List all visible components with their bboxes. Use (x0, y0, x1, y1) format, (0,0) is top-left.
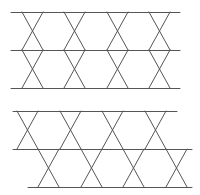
diagram-canvas (0, 0, 200, 195)
bottom-figure (13, 111, 192, 188)
top-figure (11, 12, 180, 89)
